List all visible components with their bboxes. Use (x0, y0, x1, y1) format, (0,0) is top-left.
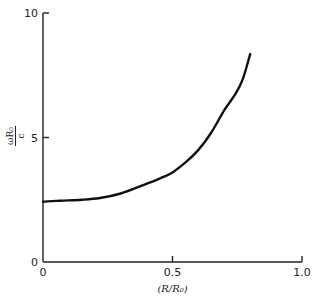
y-axis-label: ωR₀ c (6, 121, 28, 151)
x-tick-label: 0 (40, 266, 47, 279)
y-tick-label: 0 (31, 256, 38, 269)
x-tick-label: 0.5 (164, 266, 182, 279)
x-tick-label: 1.0 (293, 266, 311, 279)
y-axis-label-denominator: c (16, 133, 26, 138)
axes: 0510 00.51.0 (24, 7, 311, 279)
y-tick-label: 10 (24, 7, 38, 20)
y-tick-label: 5 (31, 132, 38, 145)
series-line (43, 54, 250, 202)
y-axis-label-numerator: ωR₀ (6, 126, 16, 146)
x-axis-label: (R/R₀) (157, 283, 187, 294)
x-ticks: 00.51.0 (40, 256, 311, 279)
chart: 0510 00.51.0 (R/R₀) (0, 0, 316, 298)
